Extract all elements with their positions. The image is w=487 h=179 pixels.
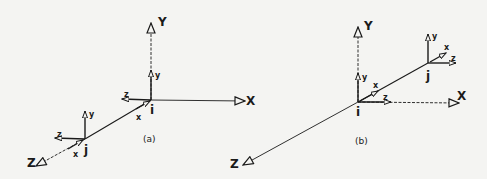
caption-a: (a) [143, 134, 156, 144]
local-x-arrow-j-a [68, 140, 83, 149]
local-z-label-i-a: z [124, 90, 129, 99]
global-x-label-b: X [457, 89, 467, 103]
global-y-label-a: Y [157, 15, 167, 29]
local-y-label-j-b: y [432, 32, 438, 41]
node-i-label-b: i [356, 105, 360, 119]
global-z-label-b: Z [230, 157, 239, 171]
local-y-label-i-a: y [155, 71, 161, 80]
global-x-label-a: X [246, 94, 256, 108]
local-x-label-i-a: x [136, 113, 142, 122]
node-j-label-b: j [425, 69, 430, 83]
global-z-axis-b [243, 102, 358, 165]
figure-a: Y X Z y z x i y z x j (a) [27, 15, 256, 170]
local-x-arrow-i-b [360, 91, 378, 101]
local-x-label-j-b: x [444, 43, 450, 52]
caption-b: (b) [355, 136, 368, 146]
local-z-label-j-a: z [57, 130, 62, 139]
node-i-label-a: i [150, 103, 154, 117]
local-z-label-i-b: z [383, 93, 388, 102]
local-y-label-i-b: y [362, 73, 368, 82]
local-x-label-j-a: x [73, 150, 79, 159]
global-x-axis-a [151, 100, 245, 101]
figure-b: Y X Z y z x i y z x j (b) [230, 19, 467, 171]
local-z-label-j-b: z [451, 54, 456, 63]
global-z-label-a: Z [27, 156, 36, 170]
local-x-arrow-i-a [136, 101, 150, 109]
node-j-label-a: j [83, 143, 88, 157]
local-x-arrow-j-b [430, 53, 446, 62]
local-x-label-i-b: x [373, 81, 379, 90]
global-y-label-b: Y [363, 19, 373, 33]
diagram-canvas: Y X Z y z x i y z x j (a) Y X Z y [0, 0, 487, 179]
local-y-label-j-a: y [89, 110, 95, 119]
local-z-arrow-i-a [122, 99, 151, 100]
